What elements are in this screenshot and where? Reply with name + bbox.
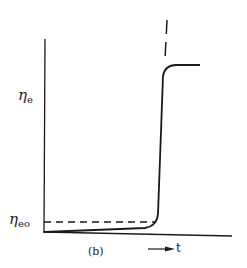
- asymptote-dashed-line: [165, 20, 167, 59]
- t-arrow-head-icon: [165, 247, 175, 252]
- eta-eo-label: ηeo: [9, 210, 30, 228]
- t-axis-label: t: [176, 241, 181, 255]
- viscosity-curve: [44, 65, 200, 232]
- y-axis: [44, 39, 45, 232]
- eta-symbol: η: [9, 210, 18, 228]
- eta-e-subscript: e: [27, 94, 33, 105]
- x-axis: [43, 232, 232, 236]
- figure-caption: (b): [88, 245, 104, 258]
- chart-canvas: [0, 0, 247, 268]
- eta-symbol: η: [18, 86, 27, 104]
- eta-eo-subscript: eo: [18, 218, 30, 229]
- eta-e-label: ηe: [18, 86, 33, 104]
